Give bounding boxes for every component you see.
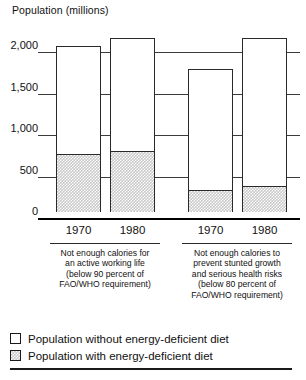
group-rule-1	[50, 243, 160, 244]
xaxis-label-group1-1980: 1980	[110, 224, 155, 236]
bar-group2-1980	[242, 38, 287, 212]
bar-segment-with-deficit	[57, 154, 100, 212]
group-caption-2: Not enough calories to prevent stunted g…	[166, 248, 306, 300]
chart-legend: Population without energy-deficient diet…	[10, 330, 298, 370]
legend-item-with-deficit: Population with energy-deficient diet	[10, 347, 298, 364]
plot-area: 2,000 1,500 1,000 500 0	[0, 44, 306, 220]
bar-segment-with-deficit	[243, 186, 286, 212]
bar-group2-1970	[188, 69, 233, 212]
caption-line: (below 90 percent of	[34, 269, 176, 279]
chart-axis-title: Population (millions)	[12, 4, 109, 16]
caption-line: prevent stunted growth	[166, 258, 306, 268]
bar-group1-1970	[56, 46, 101, 212]
xaxis-label-group2-1980: 1980	[242, 224, 287, 236]
legend-swatch-white	[10, 333, 21, 344]
ytick-label-1500: 1,500	[10, 81, 38, 94]
legend-swatch-shaded	[10, 350, 21, 361]
legend-item-without-deficit: Population without energy-deficient diet	[10, 330, 298, 347]
xaxis-label-group2-1970: 1970	[188, 224, 233, 236]
bar-segment-with-deficit	[111, 151, 154, 212]
axis-baseline	[38, 218, 300, 220]
ytick-label-0: 0	[32, 205, 38, 218]
group-caption-1: Not enough calories for an active workin…	[34, 248, 176, 290]
xaxis-label-group1-1970: 1970	[56, 224, 101, 236]
group-rule-2	[182, 243, 292, 244]
ytick-label-2000: 2,000	[10, 39, 38, 52]
legend-label-without-deficit: Population without energy-deficient diet	[28, 333, 229, 345]
chart-figure: Population (millions) 2,000 1,500 1,000 …	[0, 0, 306, 380]
caption-line: (below 80 percent of	[166, 279, 306, 289]
caption-line: Not enough calories for	[34, 248, 176, 258]
bar-group1-1980	[110, 38, 155, 212]
bar-segment-with-deficit	[189, 190, 232, 212]
ytick-label-1000: 1,000	[10, 122, 38, 135]
caption-line: FAO/WHO requirement)	[34, 279, 176, 289]
ytick-label-500: 500	[20, 164, 38, 177]
caption-line: and serious health risks	[166, 269, 306, 279]
legend-bottom-rule	[10, 368, 292, 370]
legend-label-with-deficit: Population with energy-deficient diet	[28, 350, 213, 362]
caption-line: Not enough calories to	[166, 248, 306, 258]
caption-line: an active working life	[34, 258, 176, 268]
caption-line: FAO/WHO requirement)	[166, 290, 306, 300]
